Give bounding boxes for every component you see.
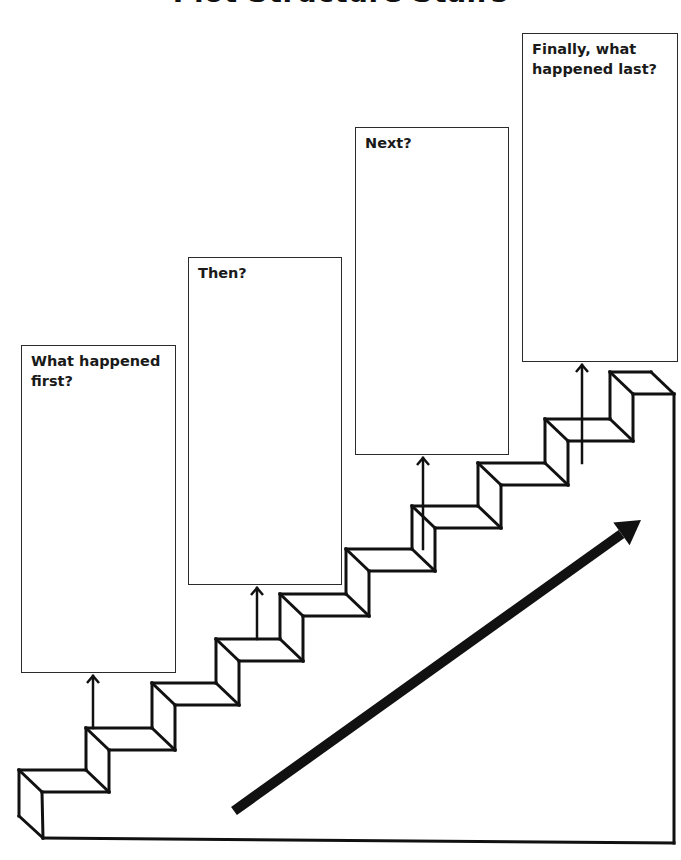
stair-edge xyxy=(152,728,175,750)
stair-edge xyxy=(19,770,42,792)
event-box-label: Finally, what happened last? xyxy=(532,39,671,79)
stair-edge xyxy=(545,419,568,441)
event-box-label: Then? xyxy=(198,263,335,283)
stair-edge xyxy=(545,463,568,485)
stair-edge xyxy=(43,838,674,843)
stair-edge xyxy=(346,594,369,616)
stair-edge xyxy=(651,372,674,394)
event-box-label: What happened first? xyxy=(31,351,169,391)
stair-edge xyxy=(280,594,303,616)
stair-edge xyxy=(152,683,175,705)
stair-edge xyxy=(610,419,633,441)
stair-edge xyxy=(478,463,501,485)
stair-edge xyxy=(216,683,239,705)
stair-edge xyxy=(19,816,43,838)
event-box-next[interactable]: Next? xyxy=(355,127,509,455)
stair-edge xyxy=(86,728,109,750)
stair-edge xyxy=(280,639,303,661)
stair-edge xyxy=(216,639,239,661)
stair-edge xyxy=(346,549,369,571)
event-box-last[interactable]: Finally, what happened last? xyxy=(522,33,678,362)
stair-edge xyxy=(42,792,43,838)
stair-edge xyxy=(86,770,109,792)
event-box-first[interactable]: What happened first? xyxy=(21,345,176,673)
stair-edge xyxy=(610,372,633,394)
event-box-label: Next? xyxy=(365,133,502,153)
event-box-then[interactable]: Then? xyxy=(188,257,342,585)
stair-edge xyxy=(478,506,501,528)
stair-edge xyxy=(412,549,435,571)
